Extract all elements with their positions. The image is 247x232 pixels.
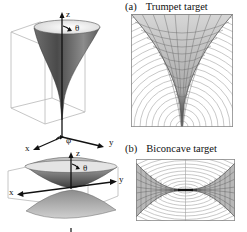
y-axis-label: y — [109, 138, 114, 147]
trumpet-target-svg — [131, 14, 233, 127]
biconcave-target-svg — [136, 159, 235, 221]
z-axis-label: z — [76, 149, 80, 158]
panel-b-plot — [136, 159, 235, 221]
panel-b-label: Biconcave target — [146, 143, 217, 154]
biconcave-3d-view: z θ x y — [0, 150, 125, 232]
x-axis-label: x — [9, 188, 14, 197]
trumpet-surface — [34, 27, 100, 120]
phi-label: φ — [66, 136, 71, 145]
panel-b-title: (b)Biconcave target — [125, 144, 217, 155]
panel-b-tag: (b) — [125, 143, 137, 154]
panel-a-tag: (a) — [125, 1, 137, 12]
panel-a-label: Trumpet target — [146, 1, 208, 12]
y-axis-label: y — [119, 175, 124, 184]
theta-label: θ — [75, 24, 79, 33]
trumpet-mesh — [131, 14, 233, 127]
trumpet-3d-view: z θ φ y x — [0, 0, 125, 150]
panel-a-plot — [131, 14, 233, 127]
bottom-cap — [26, 190, 116, 218]
theta-label: θ — [83, 164, 87, 173]
z-axis-label: z — [66, 10, 70, 19]
trumpet-3d-svg — [0, 0, 125, 150]
panel-a-title: (a)Trumpet target — [125, 2, 208, 13]
biconcave-3d-svg — [0, 150, 125, 232]
